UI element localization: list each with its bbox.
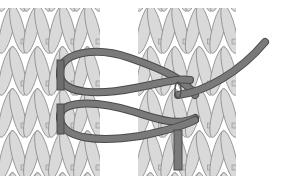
stitch-bar xyxy=(46,0,54,2)
stitch-bar xyxy=(96,165,104,170)
grafting-illustration xyxy=(0,0,286,179)
stitch-bar xyxy=(96,81,104,86)
knitting-diagram xyxy=(0,0,286,179)
stitch-bar xyxy=(71,0,79,2)
stitch-bar xyxy=(21,0,29,2)
stitch-bar xyxy=(159,0,167,2)
stitch-bar xyxy=(96,0,104,2)
stitch-bar xyxy=(232,39,240,44)
stitch-bar xyxy=(96,123,104,128)
stitch-bar xyxy=(232,0,240,2)
stitch-bar xyxy=(208,0,216,2)
stitch-bar xyxy=(232,81,240,86)
stitch-bar xyxy=(232,123,240,128)
stitch-bar xyxy=(96,39,104,44)
stitch-bar xyxy=(183,0,191,2)
stitch-bar xyxy=(232,165,240,170)
